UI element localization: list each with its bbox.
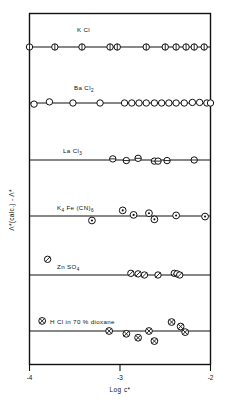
data-point (135, 271, 141, 277)
chart-svg: K Cl Ba Cl2 La Cl3 K4 Fe (CN)6 Zn SO4 H … (0, 0, 228, 402)
marker-circle (70, 100, 76, 106)
data-point (26, 44, 32, 50)
data-point (196, 99, 202, 105)
marker-circle (46, 99, 52, 105)
data-point (136, 100, 142, 106)
marker-circle (31, 101, 37, 107)
marker-center-dot (175, 214, 177, 216)
data-point (151, 100, 157, 106)
marker-center-dot (133, 214, 135, 216)
data-point (173, 44, 179, 50)
data-point (46, 99, 52, 105)
data-point (146, 328, 153, 335)
data-point (181, 100, 187, 106)
x-axis-title: Log c* (109, 386, 130, 394)
data-point (162, 44, 168, 50)
data-point (123, 157, 129, 163)
data-point (164, 157, 170, 163)
marker-center-dot (122, 209, 124, 211)
data-point (143, 44, 149, 50)
data-point (106, 328, 113, 335)
marker-circle (129, 100, 135, 106)
series-label-bacl2-main: Ba Cl (74, 84, 91, 91)
marker-circle (97, 100, 103, 106)
series-label-lacl3-sub: 3 (79, 151, 82, 156)
data-point (191, 44, 197, 50)
series-label-bacl2: Ba Cl2 (74, 84, 94, 93)
data-point (89, 217, 96, 224)
data-point (97, 100, 103, 106)
series-k4fe-cn-6 (89, 207, 209, 224)
plot-frame (30, 14, 211, 365)
data-point (129, 100, 135, 106)
marker-center-dot (153, 218, 155, 220)
data-point (52, 44, 58, 50)
x-tick-label-minus2: -2 (208, 374, 214, 381)
marker-circle (136, 100, 142, 106)
marker-circle (143, 100, 149, 106)
series-label-k4fecn6: K4 Fe (CN)6 (57, 204, 94, 213)
data-point (201, 44, 207, 50)
data-point (39, 318, 46, 325)
data-point (110, 156, 116, 162)
series-label-k4fecn6-mid: Fe (CN) (64, 204, 91, 211)
data-point (151, 216, 158, 223)
data-point (151, 338, 158, 345)
data-point (182, 329, 189, 336)
series-label-lacl3: La Cl3 (63, 147, 82, 156)
marker-center-dot (148, 212, 150, 214)
marker-circle (173, 100, 179, 106)
series-label-hcl: H Cl in 70 % dioxane (50, 318, 115, 325)
series-label-k4fecn6-sub2: 6 (91, 208, 94, 213)
marker-circle (181, 100, 187, 106)
series-label-znso4-main: Zn SO (57, 263, 77, 270)
marker-circle (151, 100, 157, 106)
conductance-deviation-figure: K Cl Ba Cl2 La Cl3 K4 Fe (CN)6 Zn SO4 H … (0, 0, 228, 402)
data-point (123, 330, 130, 337)
x-tick-label-minus4: -4 (27, 374, 33, 381)
baselines (30, 47, 211, 331)
data-point (141, 272, 147, 278)
marker-circle (189, 99, 195, 105)
marker-center-dot (91, 219, 93, 221)
data-point (166, 100, 172, 106)
marker-circle (207, 100, 213, 106)
data-markers-layer (26, 44, 213, 345)
data-point (143, 100, 149, 106)
marker-circle (166, 100, 172, 106)
data-point (158, 100, 164, 106)
data-point (44, 256, 50, 262)
x-tick-label-minus3: -3 (117, 374, 123, 381)
data-point (128, 270, 134, 276)
data-point (191, 157, 197, 163)
data-point (183, 44, 189, 50)
data-point (79, 44, 85, 50)
data-point (114, 44, 120, 50)
data-point (130, 211, 137, 218)
x-axis-ticks (30, 365, 211, 372)
data-point (207, 100, 213, 106)
data-point (146, 210, 153, 217)
data-point (121, 100, 127, 106)
data-point (155, 158, 161, 164)
data-point (135, 334, 142, 341)
series-label-znso4-sub: 4 (77, 267, 80, 272)
data-point (189, 99, 195, 105)
data-point (135, 155, 141, 161)
data-point (107, 44, 113, 50)
marker-circle (158, 100, 164, 106)
data-point (155, 272, 161, 278)
data-point (173, 100, 179, 106)
marker-center-dot (204, 216, 206, 218)
marker-circle (196, 99, 202, 105)
y-axis-title: Λ*(calc.) - Λ* (8, 189, 16, 231)
data-point (70, 100, 76, 106)
series-label-lacl3-main: La Cl (63, 147, 79, 154)
data-point (119, 207, 126, 214)
data-point (31, 101, 37, 107)
series-label-bacl2-sub: 2 (91, 88, 94, 93)
data-point (177, 272, 183, 278)
data-point (173, 212, 180, 219)
data-point (202, 213, 209, 220)
data-point (168, 319, 175, 326)
